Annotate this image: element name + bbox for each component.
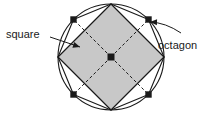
octagon-vertex-marker xyxy=(70,91,76,97)
octagon-vertex-marker xyxy=(145,91,151,97)
geometry-diagram: square octagon xyxy=(0,0,211,117)
octagon-vertex-marker xyxy=(70,16,76,22)
center-point-marker xyxy=(108,54,115,61)
figure-container: square octagon xyxy=(0,0,211,117)
square-label: square xyxy=(6,28,40,40)
octagon-label: octagon xyxy=(158,39,197,51)
